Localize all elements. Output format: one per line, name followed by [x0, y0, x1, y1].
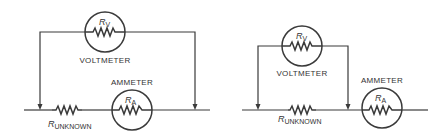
- ammeter-label: AMMETER: [111, 78, 153, 87]
- left-probe-arrow-right-icon: [193, 104, 198, 110]
- right-circuit: RV VOLTMETER RUNKNOWN RA AMMETER: [242, 26, 428, 128]
- left-ammeter: RA AMMETER: [111, 78, 153, 130]
- left-probe-arrow-left-icon: [38, 104, 43, 110]
- ammeter-label: AMMETER: [361, 76, 403, 85]
- left-voltmeter: RV VOLTMETER: [79, 12, 130, 65]
- left-voltmeter-wire-left: [40, 32, 85, 106]
- right-probe-arrow-right-icon: [346, 104, 351, 110]
- circuit-diagrams: RV VOLTMETER RUNKNOWN RA AMMETER RV VOLT…: [0, 0, 444, 138]
- left-unknown-resistor-icon: [52, 106, 82, 114]
- voltmeter-label: VOLTMETER: [79, 56, 130, 65]
- left-unknown-label: RUNKNOWN: [48, 119, 91, 130]
- voltmeter-label: VOLTMETER: [276, 69, 327, 78]
- right-ammeter: RA AMMETER: [361, 76, 403, 128]
- left-circuit: RV VOLTMETER RUNKNOWN RA AMMETER: [24, 12, 210, 130]
- right-unknown-resistor-icon: [288, 106, 316, 114]
- right-voltmeter: RV VOLTMETER: [276, 26, 327, 78]
- right-probe-arrow-left-icon: [256, 104, 261, 110]
- right-unknown-label: RUNKNOWN: [278, 114, 321, 125]
